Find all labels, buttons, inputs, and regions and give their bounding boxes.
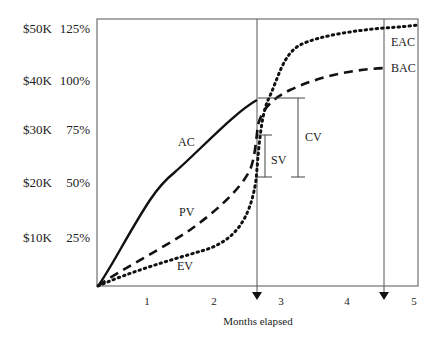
y-tick-dollars: $50K xyxy=(23,21,53,36)
eac-label: EAC xyxy=(391,35,415,49)
ac-label: AC xyxy=(178,135,195,149)
y-tick-percent: 25% xyxy=(66,230,90,245)
y-axis-dollars: $50K $40K $30K $20K $10K xyxy=(23,21,53,245)
x-tick: 4 xyxy=(344,295,350,307)
arrow-down-icon xyxy=(252,292,262,300)
y-tick-percent: 125% xyxy=(60,21,91,36)
arrow-down-icon xyxy=(379,292,389,300)
x-tick: 3 xyxy=(278,295,284,307)
pv-label: PV xyxy=(179,205,195,219)
y-tick-dollars: $30K xyxy=(23,122,53,137)
y-tick-dollars: $10K xyxy=(23,230,53,245)
series-pv xyxy=(98,68,384,286)
earned-value-chart: $50K $40K $30K $20K $10K 125% 100% 75% 5… xyxy=(0,0,442,344)
x-tick: 5 xyxy=(411,295,417,307)
x-tick: 1 xyxy=(144,295,150,307)
y-tick-dollars: $40K xyxy=(23,73,53,88)
bac-label: BAC xyxy=(391,61,416,75)
x-axis-label: Months elapsed xyxy=(223,315,293,327)
y-tick-percent: 75% xyxy=(66,122,90,137)
sv-label: SV xyxy=(271,153,287,167)
y-tick-dollars: $20K xyxy=(23,175,53,190)
cv-label: CV xyxy=(305,130,322,144)
y-axis-percent: 125% 100% 75% 50% 25% xyxy=(60,21,91,245)
series-ev xyxy=(98,25,418,286)
y-tick-percent: 50% xyxy=(66,175,90,190)
ev-label: EV xyxy=(177,259,193,273)
x-axis: 1 2 3 4 5 xyxy=(144,295,417,307)
y-tick-percent: 100% xyxy=(60,73,91,88)
x-tick: 2 xyxy=(211,295,217,307)
